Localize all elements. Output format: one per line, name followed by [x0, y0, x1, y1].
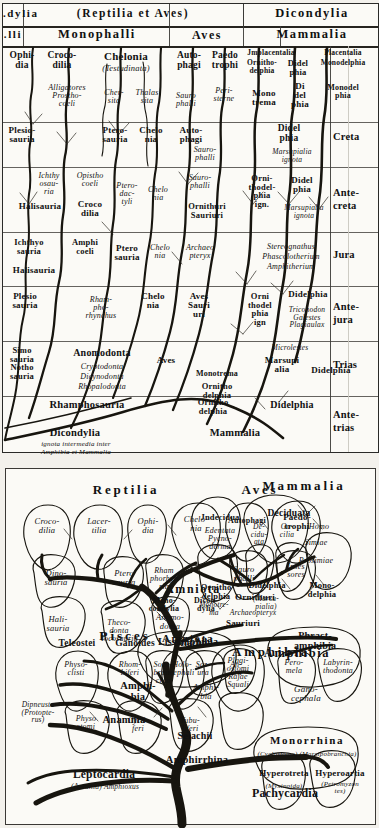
tree-sauriuri: Sauriuri [212, 619, 274, 628]
taxon-paedotrophi: Paedo trophi [207, 51, 243, 70]
stem-amphibia-small: Amphi- bia [112, 681, 164, 702]
tree-anomodonta: Anamo- donta [148, 613, 192, 630]
period-antejura: Ante- jura [333, 300, 377, 326]
taxon-chelonia-antejura: Chelo nia [137, 292, 169, 310]
taxon-chersita: Cher- sita [99, 89, 129, 105]
stem-pachycardia: Pachycardia [232, 787, 338, 799]
tree-ophidia: Ophi- dia [130, 517, 166, 534]
taxon-amphicoeli: Amphi coeli [65, 238, 105, 255]
tree-edentata: Edentata Pycno- derma [192, 527, 248, 551]
tree-monorrhina-synonyms: (Cyclostoma) (Marsipobranchia) [250, 751, 364, 758]
taxon-ophidia: Ophi- dia [5, 51, 39, 70]
taxon-halisauria-jura: Halisauria [3, 266, 65, 275]
tree-amphibia-small: Amphi- bia [184, 683, 228, 700]
period-antecreta: Ante- creta [333, 186, 377, 212]
tree-lacertilia: Lacer- tilia [78, 517, 120, 534]
taxon-plesiosauria-antejura: Plesio sauria [5, 292, 45, 310]
tree-dipneusta: Dipneusta (Protopte- rus) [10, 701, 66, 724]
tree-teleostei: Teleostei [44, 639, 110, 649]
taxon-chelonia: Chelonia [95, 51, 157, 62]
taxon-rhamphosauria: Rhamphosauria [27, 400, 147, 411]
tree-marsupialia: (Marsu- pialia) [244, 595, 288, 610]
period-jura: Jura [333, 250, 377, 261]
stem-acrania-amphioxus: (Acrania) Amphioxus [52, 783, 158, 791]
taxon-ornithodelphia: Ornitho- delphia [241, 59, 283, 74]
taxon-monotrema-trias: Monotrema [189, 370, 245, 378]
taxon-thalassita: Thalas sita [131, 89, 163, 105]
taxon-alligatores: Alligatores Prostho- coeli [41, 84, 93, 108]
tree-labyrinthodonta: Labyrin- thodonta [314, 659, 362, 675]
haeckel-vertebrate-phylogeny-plate: .dylia (Reptilia et Aves) Dicondylia .ll… [0, 0, 379, 828]
tree-ganocephala: Gano- cephala [278, 685, 334, 703]
taxon-aves-sauriuri: Aves Sauri uri [179, 292, 219, 319]
taxon-ornithodelphia-ign: Orni- thodel- phia ign. [241, 174, 283, 208]
taxon-didelphia-2: Di del phia [285, 82, 315, 109]
tree-anura: An- ura [220, 661, 252, 677]
period-creta: Creta [333, 132, 377, 143]
stem-amniota-upper: Amniota [154, 583, 232, 595]
taxon-didelphia: Didel phia [283, 59, 313, 76]
taxon-marsupialia-ignota-2: Marsupialia ignota [275, 204, 333, 219]
taxon-aves-trias: Aves [149, 356, 183, 365]
taxon-chelonia-jura: Chelo nia [145, 244, 175, 260]
taxon-antejura-mammals: Triconodon Galestes Plagiaulax [279, 306, 335, 329]
tree-hyperotreta: Hyperotreta [256, 769, 312, 778]
taxon-ornithuri-sauriuri: Ornithuri Sauriuri [179, 202, 235, 219]
taxon-didelphia-antetrias: Didelphia [261, 400, 323, 410]
taxon-jura-mammals: Stereognathus Phascolotherium Amphitheri… [249, 242, 333, 272]
taxon-didelphia-creta: Didel phia [271, 124, 307, 143]
tree-dinosauria: Dino- sauria [34, 569, 78, 586]
taxon-rhamphorhynchus: Rham- pho- rhynchus [79, 296, 123, 320]
taxon-opisthocoeli: Opistho coeli [71, 172, 109, 188]
taxon-halisauria: Halisauria [9, 202, 71, 211]
taxon-marsupialia-ignota: Marsupialia ignota [261, 148, 323, 163]
stem-dicondylia: Dicon- dylia [184, 597, 228, 613]
stem-amniota-lower: Amniota [150, 633, 226, 644]
stem-anamnia: Anamnia [92, 715, 156, 726]
taxon-pterodactyli: Ptero- dac- tyli [111, 182, 143, 206]
tree-insessores: Inses sores [274, 563, 318, 579]
taxon-crocodilia: Croco- dilia [41, 51, 83, 70]
stratigraphic-panel: .dylia (Reptilia et Aves) Dicondylia .ll… [2, 3, 379, 453]
taxon-ornithodelphia-antejura: Orni thodel phia ign [239, 292, 281, 326]
taxon-marsupialia: Marsupi alia [257, 356, 307, 374]
stem-leptocardia: Leptocardia [54, 769, 154, 781]
taxon-saurophalli-creta: Sauro- phalli [185, 146, 225, 162]
taxon-dicondylia: Dicondylia [35, 428, 115, 439]
taxon-plesiosauria: Plesio- sauria [3, 126, 41, 144]
taxon-testudinata: (Testudinata) [95, 64, 157, 73]
taxon-crocodilia-antecreta: Croco dilia [71, 200, 109, 218]
tree-homo: Homo [302, 523, 336, 531]
taxon-autophagi-creta: Auto- phagi [171, 126, 211, 144]
tree-physoclisti: Physo- clisti [54, 661, 98, 677]
taxon-pterosauria: Ptero- sauria [97, 126, 133, 144]
tree-sozura: Soz- ura [186, 661, 220, 677]
tree-deciduata: Deciduata [250, 509, 328, 519]
tree-crocodilia: Croco- dilia [26, 517, 68, 534]
tree-monodelphia: Mono- delphia [298, 581, 346, 598]
tree-selachii-stem: Selachii [162, 731, 228, 741]
taxon-placentalia: Placentalia [313, 49, 373, 57]
taxon-mammalia-base: Mammalia [193, 428, 277, 439]
tree-didelphia: Didelphia [240, 581, 294, 590]
note-dicondylia-ignota: ignota intermedia inter Amphibia et Mamm… [21, 440, 131, 457]
tree-gocilia: Go- cilia [274, 523, 300, 538]
taxon-sauraphalli: Sauro phalli [169, 92, 203, 108]
taxon-chelonia-creta: Chelo nia [135, 126, 167, 144]
taxon-ornithodelphia-antetrias: Ornitho delphia [189, 398, 237, 415]
phylogenetic-tree-panel: Reptilia Aves Mammalia Pisces Amphibia C… [5, 468, 376, 825]
taxon-monodelphia: Monodelphia [313, 59, 373, 67]
tree-halisauria: Hali- sauria [36, 615, 80, 632]
tree-peromela: Pero- mela [274, 659, 314, 675]
taxon-anomodonta-sub: Cryptodonta Dicynodonta Rhopalodonta [57, 362, 147, 392]
stem-amphibia-main: Amphibia [242, 647, 352, 660]
taxon-monotrema: Mono trema [243, 89, 285, 107]
taxon-peristerne: Peri- sterne [207, 87, 241, 103]
tree-monorrhina: Monorrhina [254, 735, 360, 746]
taxon-saurophalli-antecreta: Sauro- phalli [181, 174, 219, 190]
taxon-monodelphia-2: Monodel phia [315, 84, 371, 100]
taxon-ichthyosauria: Ichthyo sauria [7, 238, 51, 255]
period-antetrias: Ante- trias [333, 408, 377, 434]
period-trias: Trias [333, 360, 377, 371]
tree-indecidua: Jndecidua [192, 513, 248, 522]
